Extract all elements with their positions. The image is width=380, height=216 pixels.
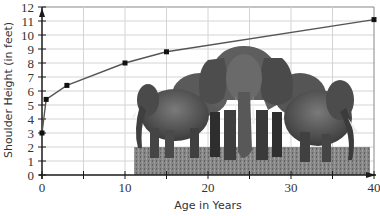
y-tick-label: 7 bbox=[28, 70, 35, 85]
y-axis-title: Shoulder Height (in feet) bbox=[2, 22, 15, 158]
y-tick-label: 0 bbox=[28, 168, 35, 183]
data-point-marker bbox=[64, 83, 69, 88]
data-point-marker bbox=[44, 97, 49, 102]
y-tick-label: 8 bbox=[28, 56, 35, 71]
y-axis-arrow-icon bbox=[39, 8, 45, 17]
x-tick-label: 20 bbox=[202, 180, 215, 195]
y-tick-label: 9 bbox=[28, 42, 35, 57]
y-tick-label: 5 bbox=[28, 98, 35, 113]
x-tick-label: 10 bbox=[119, 180, 132, 195]
x-tick-label: 40 bbox=[368, 180, 380, 195]
y-tick-label: 12 bbox=[21, 0, 34, 15]
y-tick-label: 11 bbox=[21, 14, 34, 29]
chart: 0123456789101112010203040 Age in Years S… bbox=[0, 0, 380, 216]
y-tick-label: 3 bbox=[28, 126, 35, 141]
y-tick-label: 2 bbox=[28, 140, 35, 155]
data-point-marker bbox=[372, 17, 377, 22]
data-point-marker bbox=[123, 61, 128, 66]
x-tick-label: 30 bbox=[285, 180, 298, 195]
y-tick-label: 1 bbox=[28, 154, 35, 169]
x-tick-label: 0 bbox=[39, 180, 46, 195]
data-point-marker bbox=[40, 131, 45, 136]
data-point-marker bbox=[164, 49, 169, 54]
y-tick-label: 4 bbox=[28, 112, 35, 127]
x-axis-title: Age in Years bbox=[174, 199, 242, 212]
y-tick-label: 10 bbox=[21, 28, 34, 43]
y-tick-label: 6 bbox=[28, 84, 35, 99]
